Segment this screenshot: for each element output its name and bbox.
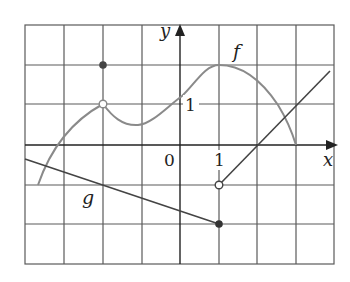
- f-filled-point: [99, 61, 107, 69]
- line-open-point: [215, 181, 223, 189]
- function-graph: 1 1 0 x y f g: [0, 0, 350, 282]
- x-axis-label: x: [323, 149, 333, 170]
- curve-f-label: f: [231, 40, 243, 62]
- line-g: [25, 159, 219, 224]
- axes: [25, 32, 330, 264]
- line-right: [219, 71, 330, 185]
- x-tick-label: 1: [214, 150, 225, 170]
- y-tick-label: 1: [185, 95, 196, 115]
- y-axis-label: y: [159, 20, 171, 41]
- origin-label: 0: [164, 150, 175, 170]
- y-axis-arrow-icon: [175, 24, 185, 36]
- curve-g-label: g: [82, 186, 94, 208]
- g-filled-point: [215, 220, 223, 228]
- f-open-point: [99, 100, 107, 108]
